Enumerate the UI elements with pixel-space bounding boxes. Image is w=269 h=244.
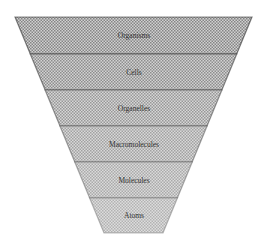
pyramid-level-cells: Cells [30, 54, 237, 90]
pyramid-level-organelles: Organelles [45, 90, 222, 126]
level-label: Organisms [118, 31, 150, 40]
level-label: Molecules [118, 176, 149, 185]
pyramid-level-molecules: Molecules [75, 162, 193, 198]
level-label: Atoms [124, 211, 144, 220]
level-label: Organelles [118, 104, 150, 113]
pyramid-level-atoms: Atoms [90, 198, 178, 233]
inverted-pyramid-diagram: OrganismsCellsOrganellesMacromoleculesMo… [0, 0, 269, 244]
pyramid-level-organisms: Organisms [15, 17, 252, 54]
pyramid-level-macromolecules: Macromolecules [60, 126, 207, 162]
level-label: Macromolecules [109, 140, 159, 149]
level-label: Cells [126, 68, 141, 77]
